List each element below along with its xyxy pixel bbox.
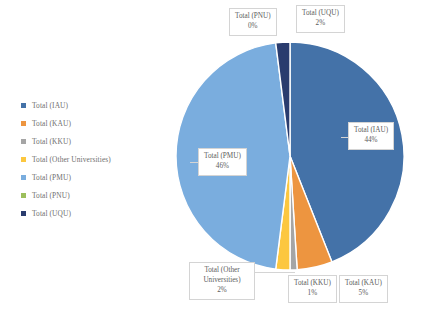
legend-swatch-pmu [21, 175, 26, 180]
legend-item-pnu[interactable]: Total (PNU) [18, 186, 168, 204]
legend-swatch-kau [21, 121, 26, 126]
data-label-kau: Total (KAU) 5% [339, 275, 388, 303]
legend-item-kku[interactable]: Total (KKU) [18, 132, 168, 150]
data-label-pnu: Total (PNU) 0% [229, 8, 277, 36]
legend-item-kau[interactable]: Total (KAU) [18, 114, 168, 132]
data-label-other-universities-name: Total (Other Universities) [203, 266, 240, 284]
legend-label-iau: Total (IAU) [32, 101, 68, 110]
legend-label-pmu: Total (PMU) [32, 173, 71, 182]
data-label-kku-value: 1% [294, 289, 331, 299]
legend-item-pmu[interactable]: Total (PMU) [18, 168, 168, 186]
data-label-pmu-value: 46% [204, 162, 241, 172]
data-label-iau: Total (IAU) 44% [348, 122, 394, 150]
legend-swatch-other-universities [21, 157, 26, 162]
data-label-pnu-name: Total (PNU) [235, 12, 271, 20]
chart-legend: Total (IAU) Total (KAU) Total (KKU) Tota… [18, 96, 168, 222]
data-label-pmu-name: Total (PMU) [204, 152, 241, 160]
legend-swatch-pnu [21, 193, 26, 198]
leader-line-other [255, 272, 295, 273]
data-label-kau-value: 5% [345, 289, 382, 299]
legend-label-kku: Total (KKU) [32, 137, 71, 146]
legend-label-pnu: Total (PNU) [32, 191, 70, 200]
data-label-pmu: Total (PMU) 46% [198, 148, 247, 176]
data-label-iau-value: 44% [354, 136, 388, 146]
legend-label-kau: Total (KAU) [32, 119, 71, 128]
legend-swatch-kku [21, 139, 26, 144]
legend-label-other-universities: Total (Other Universities) [32, 155, 111, 164]
data-label-other-universities-value: 2% [195, 286, 249, 296]
legend-item-iau[interactable]: Total (IAU) [18, 96, 168, 114]
data-label-other-universities: Total (Other Universities) 2% [189, 262, 255, 300]
data-label-iau-name: Total (IAU) [354, 126, 388, 134]
legend-swatch-iau [21, 103, 26, 108]
data-label-kku: Total (KKU) 1% [288, 275, 337, 303]
legend-item-uqu[interactable]: Total (UQU) [18, 204, 168, 222]
data-label-kku-name: Total (KKU) [294, 279, 331, 287]
data-label-kau-name: Total (KAU) [345, 279, 382, 287]
legend-label-uqu: Total (UQU) [32, 209, 71, 218]
data-label-uqu-value: 2% [302, 19, 339, 29]
data-label-uqu-name: Total (UQU) [302, 9, 339, 17]
legend-swatch-uqu [21, 211, 26, 216]
pie-chart-figure: Total (IAU) Total (KAU) Total (KKU) Tota… [0, 0, 439, 311]
data-label-uqu: Total (UQU) 2% [296, 5, 345, 33]
data-label-pnu-value: 0% [235, 22, 271, 32]
legend-item-other-universities[interactable]: Total (Other Universities) [18, 150, 168, 168]
